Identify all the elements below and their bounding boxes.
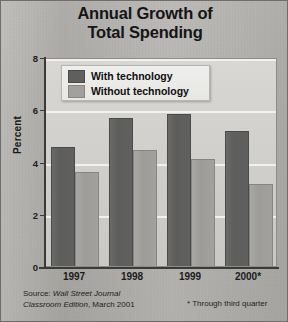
y-tick-label-4: 4 — [33, 157, 38, 168]
y-tick-label-2: 2 — [33, 209, 38, 220]
legend-swatch-icon-with-technology — [68, 70, 85, 83]
source-edition: Classroom Edition — [23, 300, 88, 309]
y-tick-label-6: 6 — [33, 105, 38, 116]
y-tick-mark-4 — [40, 163, 45, 164]
chart-figure: Annual Growth of Total Spending 02468 Pe… — [0, 0, 288, 322]
y-tick-label-0: 0 — [33, 262, 38, 273]
bar-1998-with-technology — [109, 118, 133, 266]
y-tick-mark-2 — [40, 215, 45, 216]
gridline-8 — [46, 59, 276, 61]
bar-1999-without-technology — [191, 159, 215, 266]
y-tick-mark-6 — [40, 110, 45, 111]
bar-1998-without-technology — [133, 150, 157, 266]
bar-1997-with-technology — [51, 147, 75, 266]
source-note: Source: Wall Street JournalClassroom Edi… — [23, 289, 173, 310]
y-tick-label-8: 8 — [33, 53, 38, 64]
bar-2000-without-technology — [249, 184, 273, 266]
source-date: , March 2001 — [88, 300, 135, 309]
legend-label-without-technology: Without technology — [91, 86, 189, 97]
footnote-text: * Through third quarter — [187, 299, 267, 308]
x-axis-line — [39, 267, 279, 269]
legend-item-without-technology: Without technology — [68, 84, 209, 98]
bar-2000-with-technology — [225, 131, 249, 266]
source-prefix: Source: — [23, 289, 53, 298]
y-axis-ticks: 02468 — [1, 1, 45, 322]
x-axis-label-1999: 1999 — [161, 271, 219, 282]
source-publication: Wall Street Journal — [53, 289, 120, 298]
x-axis-label-2000: 2000* — [219, 271, 277, 282]
x-axis-label-1998: 1998 — [103, 271, 161, 282]
legend-label-with-technology: With technology — [91, 71, 173, 82]
gridline-6 — [46, 111, 276, 113]
y-tick-mark-8 — [40, 58, 45, 59]
bar-1997-without-technology — [75, 172, 99, 266]
x-axis-label-1997: 1997 — [45, 271, 103, 282]
y-axis-title: Percent — [12, 84, 23, 154]
legend-item-with-technology: With technology — [68, 69, 209, 83]
legend-swatch-icon-without-technology — [68, 85, 85, 98]
chart-legend: With technology Without technology — [61, 65, 210, 101]
y-tick-mark-0 — [40, 267, 45, 268]
bar-1999-with-technology — [167, 114, 191, 266]
